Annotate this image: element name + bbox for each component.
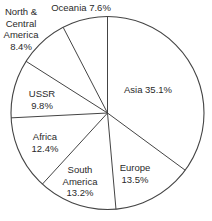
label-asia: Asia 35.1% [124, 84, 172, 96]
label-nca-line3: America [4, 29, 39, 41]
label-sa-line2: America [63, 176, 98, 188]
label-sa-line1: South [63, 164, 98, 176]
slice-divider-south-america [108, 113, 116, 209]
label-oceania-text: Oceania 7.6% [51, 2, 111, 14]
label-south-america: South America 13.2% [63, 164, 98, 199]
label-ussr: USSR 9.8% [29, 88, 55, 111]
label-nca-line4: 8.4% [4, 41, 39, 53]
label-nca-line2: Central [4, 18, 39, 30]
label-europe: Europe 13.5% [120, 162, 151, 185]
label-nca-line1: North & [4, 6, 39, 18]
label-africa: Africa 12.4% [32, 131, 59, 154]
label-asia-text: Asia 35.1% [124, 84, 172, 96]
label-ussr-name: USSR [29, 88, 55, 100]
label-europe-name: Europe [120, 162, 151, 174]
label-europe-value: 13.5% [120, 174, 151, 186]
label-africa-value: 12.4% [32, 143, 59, 155]
label-africa-name: Africa [32, 131, 59, 143]
label-oceania: Oceania 7.6% [51, 2, 111, 14]
slice-divider-ussr [11, 113, 107, 118]
label-north-central-america: North & Central America 8.4% [4, 6, 39, 52]
label-ussr-value: 9.8% [29, 100, 55, 112]
slice-divider-oceania [63, 27, 107, 113]
label-sa-line3: 13.2% [63, 187, 98, 199]
